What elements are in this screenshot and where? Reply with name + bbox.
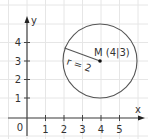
x-tick-label: 4 [98, 124, 104, 135]
center-point [98, 59, 102, 63]
y-axis-label: y [31, 15, 37, 26]
radius-label: r = 2 [65, 56, 92, 74]
y-tick-label: 4 [15, 37, 21, 48]
y-tick-label: 3 [15, 56, 21, 67]
x-axis-arrow-icon [138, 116, 145, 121]
y-axis-arrow-icon [25, 16, 30, 23]
y-tick-label: 1 [15, 93, 21, 104]
x-tick-label: 5 [116, 124, 122, 135]
origin-label: 0 [17, 122, 23, 133]
x-tick-label: 3 [79, 124, 85, 135]
axes [8, 20, 140, 136]
x-tick-label: 2 [61, 124, 67, 135]
x-tick-label: 1 [42, 124, 48, 135]
y-tick-label: 2 [15, 74, 21, 85]
coordinate-diagram: 1 2 3 4 5 1 2 3 4 0 x y M (4|3) r = 2 [0, 0, 148, 139]
center-label: M (4|3) [94, 47, 130, 59]
x-axis-label: x [135, 104, 141, 115]
